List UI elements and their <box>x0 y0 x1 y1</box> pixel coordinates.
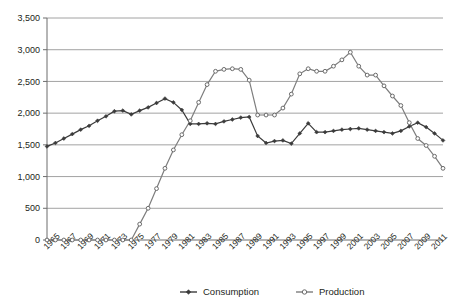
data-point <box>382 130 386 134</box>
data-series <box>47 52 443 240</box>
data-point <box>121 109 125 113</box>
x-axis-tick-label: 1969 <box>75 231 96 252</box>
x-axis-tick-label: 1985 <box>210 231 231 252</box>
data-point <box>357 126 361 130</box>
data-point <box>62 238 66 242</box>
data-point <box>239 116 243 120</box>
data-point <box>340 58 344 62</box>
data-point <box>256 113 260 117</box>
data-point <box>273 113 277 117</box>
data-point <box>146 206 150 210</box>
chart-container: 05001,0001,5002,0002,5003,0003,500 19651… <box>0 0 456 307</box>
y-axis-labels: 05001,0001,5002,0002,5003,0003,500 <box>17 13 40 245</box>
x-axis-tick-label: 2009 <box>412 231 433 252</box>
series-line-consumption <box>47 99 443 147</box>
data-point <box>138 109 142 113</box>
data-point <box>340 128 344 132</box>
x-axis-tick-label: 1983 <box>193 231 214 252</box>
data-point <box>87 238 91 242</box>
legend-marker-production <box>302 290 306 294</box>
x-axis-tick-label: 1971 <box>92 231 113 252</box>
y-axis-tick-label: 1,000 <box>17 172 40 182</box>
data-point <box>416 137 420 141</box>
data-point <box>222 119 226 123</box>
x-axis-tick-label: 2005 <box>378 231 399 252</box>
data-point <box>315 69 319 73</box>
data-point <box>247 115 251 119</box>
data-point <box>121 238 125 242</box>
data-point <box>323 69 327 73</box>
data-point <box>391 94 395 98</box>
data-point <box>323 130 327 134</box>
x-axis-tick-label: 1973 <box>109 231 130 252</box>
data-point <box>230 118 234 122</box>
data-point <box>70 238 74 242</box>
data-point <box>214 122 218 126</box>
data-point <box>155 187 159 191</box>
data-point <box>214 69 218 73</box>
legend-marker-consumption <box>186 290 191 295</box>
data-point <box>264 113 268 117</box>
data-point <box>171 148 175 152</box>
data-point <box>424 144 428 148</box>
data-point <box>54 238 58 242</box>
x-axis-tick-label: 2007 <box>395 231 416 252</box>
y-axis-tick-label: 2,000 <box>17 108 40 118</box>
chart-legend: ConsumptionProduction <box>180 286 364 297</box>
x-axis-labels: 1965196719691971197319751977197919811983… <box>41 231 449 252</box>
data-point <box>113 238 117 242</box>
x-axis-tick-label: 1965 <box>41 231 62 252</box>
x-axis-tick-label: 1979 <box>159 231 180 252</box>
data-point <box>205 83 209 87</box>
data-point <box>332 64 336 68</box>
data-point <box>180 133 184 137</box>
y-axis-tick-label: 3,000 <box>17 45 40 55</box>
legend-label-consumption: Consumption <box>203 286 259 297</box>
x-axis-tick-label: 1977 <box>142 231 163 252</box>
x-axis-tick-label: 1991 <box>260 231 281 252</box>
data-point <box>407 121 411 125</box>
data-point <box>129 238 133 242</box>
data-point <box>188 119 192 123</box>
x-axis-tick-label: 1975 <box>126 231 147 252</box>
x-axis-tick-label: 1995 <box>294 231 315 252</box>
x-axis-tick-label: 1989 <box>244 231 265 252</box>
data-point <box>332 129 336 133</box>
y-axis-tick-label: 0 <box>35 235 40 245</box>
data-point <box>45 238 49 242</box>
data-point <box>205 121 209 125</box>
gridlines <box>47 18 443 240</box>
series-line-production <box>47 52 443 240</box>
data-point <box>348 127 352 131</box>
line-chart: 05001,0001,5002,0002,5003,0003,500 19651… <box>0 0 456 307</box>
data-point <box>382 84 386 88</box>
data-point <box>298 72 302 76</box>
data-point <box>399 104 403 108</box>
x-axis-tick-label: 1999 <box>328 231 349 252</box>
data-point <box>365 73 369 77</box>
data-point <box>433 154 437 158</box>
data-point <box>222 67 226 71</box>
data-point <box>247 78 251 82</box>
y-axis-tick-label: 3,500 <box>17 13 40 23</box>
data-point <box>239 67 243 71</box>
x-axis-tick-label: 2001 <box>345 231 366 252</box>
data-markers <box>45 50 445 242</box>
data-point <box>281 106 285 110</box>
data-point <box>230 67 234 71</box>
y-axis-tick-label: 2,500 <box>17 77 40 87</box>
y-axis-ticks <box>43 18 47 240</box>
data-point <box>96 238 100 242</box>
data-point <box>365 128 369 132</box>
y-axis-tick-label: 500 <box>25 203 40 213</box>
data-point <box>391 132 395 136</box>
data-point <box>163 166 167 170</box>
data-point <box>197 122 201 126</box>
data-point <box>306 67 310 71</box>
data-point <box>441 166 445 170</box>
data-point <box>79 238 83 242</box>
data-point <box>348 50 352 54</box>
data-point <box>273 139 277 143</box>
data-point <box>138 222 142 226</box>
data-point <box>104 238 108 242</box>
